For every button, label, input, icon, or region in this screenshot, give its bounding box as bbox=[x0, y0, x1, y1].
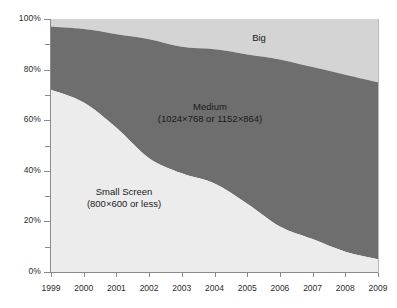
x-tick-2002 bbox=[149, 273, 150, 277]
x-tick-2007 bbox=[313, 273, 314, 277]
y-tick-major-100 bbox=[44, 19, 50, 20]
x-tick-2001 bbox=[116, 273, 117, 277]
y-tick-major-80 bbox=[44, 70, 50, 71]
y-tick-minor-10 bbox=[45, 247, 50, 248]
series-label-medium-line2: (1024×768 or 1152×864) bbox=[115, 113, 305, 125]
y-axis-label-0: 0% bbox=[29, 266, 42, 276]
x-tick-2006 bbox=[280, 273, 281, 277]
x-tick-2000 bbox=[84, 273, 85, 277]
y-axis-label-20: 20% bbox=[24, 215, 41, 225]
y-tick-major-0 bbox=[44, 272, 50, 273]
x-tick-1999 bbox=[51, 273, 52, 277]
chart-figure: 0%20%40%60%80%100% 199920002001200220032… bbox=[0, 0, 397, 308]
y-tick-minor-50 bbox=[45, 146, 50, 147]
series-label-small-line2: (800×600 or less) bbox=[39, 198, 209, 210]
x-tick-2005 bbox=[247, 273, 248, 277]
stacked-area-svg bbox=[51, 19, 378, 272]
x-axis-label-2009: 2009 bbox=[358, 283, 397, 293]
series-label-medium-line1: Medium bbox=[193, 101, 227, 112]
x-tick-2009 bbox=[378, 273, 379, 277]
series-label-big: Big bbox=[229, 32, 289, 44]
y-tick-major-40 bbox=[44, 171, 50, 172]
x-tick-2003 bbox=[182, 273, 183, 277]
series-label-small-line1: Small Screen bbox=[96, 186, 153, 197]
x-tick-2008 bbox=[345, 273, 346, 277]
y-tick-minor-90 bbox=[45, 44, 50, 45]
y-axis-label-100: 100% bbox=[19, 13, 41, 23]
y-axis-label-80: 80% bbox=[24, 64, 41, 74]
plot-right-border bbox=[378, 19, 379, 273]
y-tick-major-20 bbox=[44, 221, 50, 222]
series-label-big-line1: Big bbox=[252, 32, 266, 43]
series-label-medium: Medium (1024×768 or 1152×864) bbox=[115, 101, 305, 125]
series-label-small-screen: Small Screen (800×600 or less) bbox=[39, 186, 209, 210]
y-axis-label-60: 60% bbox=[24, 114, 41, 124]
x-tick-2004 bbox=[215, 273, 216, 277]
y-tick-major-60 bbox=[44, 120, 50, 121]
y-tick-minor-70 bbox=[45, 95, 50, 96]
plot-area bbox=[51, 19, 378, 272]
y-axis-label-40: 40% bbox=[24, 165, 41, 175]
